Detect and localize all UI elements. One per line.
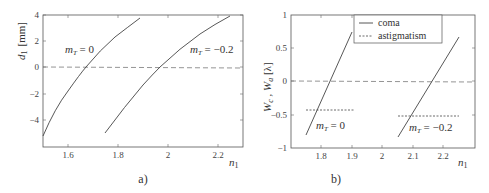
figure: 4 2 0 −2 −4 1.6 1.8 2 2.2 n1 d1[mm] mT =… [0, 0, 489, 193]
panel-a-curve-mt0 [43, 18, 140, 136]
panel-a-ytick-label: 2 [35, 36, 40, 46]
panel-b-ytick-label: 0 [283, 76, 288, 86]
panel-a-axes-box [43, 15, 243, 147]
panel-b-xlabel: n1 [458, 156, 468, 170]
panel-b-ytick-label: 0.5 [276, 43, 288, 53]
panel-b-xtick-label: 2 [380, 151, 385, 161]
panel-b-xtick-label: 1.8 [315, 151, 327, 161]
panel-b-xtick-label: 2.2 [437, 151, 448, 161]
panel-a-ytick-label: −2 [29, 89, 39, 99]
panel-b-ytick-label: −1 [277, 143, 287, 153]
panel-b: 1 0.5 0 −0.5 −1 1.8 1.9 2 2.1 2.2 n1 Wc … [261, 10, 475, 186]
panel-b-xtick-label: 2.1 [407, 151, 418, 161]
panel-a-xtick-label: 1.8 [112, 150, 124, 160]
panel-a-curve-mt-02 [105, 16, 230, 133]
panel-a-annotation-mt-02: mT = −0.2 [190, 43, 234, 57]
panel-b-annotation-mt0: mT = 0 [316, 119, 346, 133]
panel-a-xtick-label: 2 [166, 150, 171, 160]
legend-astig-label: astigmatism [378, 30, 427, 41]
panel-a-annotation-mt0: mT = 0 [65, 43, 95, 57]
panel-a-xlabel: n1 [229, 156, 239, 170]
panel-a: 4 2 0 −2 −4 1.6 1.8 2 2.2 n1 d1[mm] mT =… [15, 10, 243, 186]
panel-a-xtick-label: 1.6 [62, 150, 74, 160]
panel-b-zero-line [291, 81, 475, 82]
panel-a-caption: a) [138, 172, 147, 186]
panel-a-ytick-label: −4 [29, 115, 39, 125]
panel-b-caption: b) [331, 172, 341, 186]
panel-b-xtick-label: 1.9 [346, 151, 358, 161]
panel-b-ylabel: Wc , Wa [λ] [261, 62, 275, 112]
panel-a-zero-line [43, 67, 243, 68]
panel-b-ytick-label: 1 [283, 10, 288, 20]
panel-a-ytick-label: 4 [35, 10, 40, 20]
panel-a-xticks [68, 15, 218, 147]
panel-b-annotation-mt-02: mT = −0.2 [409, 121, 453, 135]
panel-b-legend: coma astigmatism [354, 15, 442, 43]
panel-a-xtick-label: 2.2 [212, 150, 223, 160]
legend-coma-label: coma [378, 17, 400, 28]
panel-a-ylabel: d1[mm] [15, 22, 29, 60]
panel-b-ytick-label: −0.5 [271, 110, 288, 120]
panel-a-ytick-label: 0 [35, 62, 40, 72]
